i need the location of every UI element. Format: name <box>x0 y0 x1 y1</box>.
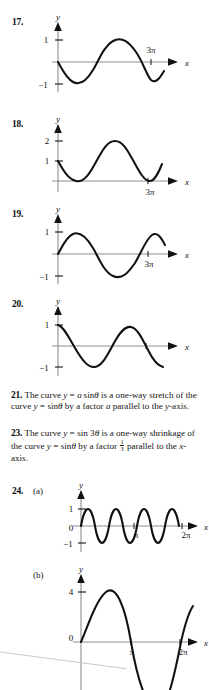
x-axis-arrow <box>168 58 178 66</box>
problem-18-number: 18. <box>12 119 23 129</box>
y-axis-arrow <box>54 124 62 133</box>
y-axis-label: y <box>78 564 83 574</box>
x-axis-label: x <box>184 58 189 68</box>
problem-17-graph: 1 −1 3π y x <box>36 14 196 100</box>
y-axis-arrow <box>54 306 62 315</box>
x-tick-label-3pi: 3π <box>144 259 154 269</box>
problem-24: 24. (a) 1 0 −1 π 2π y x <box>0 484 209 690</box>
y-tick-label-neg1: −1 <box>38 80 48 90</box>
y-tick-label-1: 1 <box>69 504 74 514</box>
x-tick-label-3pi: 3π <box>146 45 156 55</box>
x-axis-arrow <box>188 522 198 530</box>
x-tick-label-pi: π <box>130 647 135 657</box>
x-axis-label: x <box>184 250 189 260</box>
y-axis-arrow <box>77 490 85 499</box>
x-axis-arrow <box>188 638 198 646</box>
problem-23-text: The curve y = sin 3θ is a one-way shrink… <box>11 428 195 463</box>
problem-21-text: The curve y = a sinθ is a one-way stretc… <box>11 390 197 411</box>
problem-21-number: 21. <box>11 390 22 400</box>
problem-20: 20. 1 −1 y x <box>0 296 209 388</box>
problem-24a-graph: 1 0 −1 π 2π y x <box>55 484 209 564</box>
problem-21: 21. The curve y = a sinθ is a one-way st… <box>11 390 203 412</box>
y-axis-label: y <box>55 296 60 306</box>
x-axis-label: x <box>184 342 189 352</box>
y-axis-label: y <box>78 480 83 490</box>
problem-24b-graph: 4 0 π 2π y x <box>55 568 209 690</box>
y-tick-label-1: 1 <box>45 227 50 237</box>
problem-19: 19. 1 −1 3π y x <box>0 206 209 296</box>
x-axis-arrow <box>168 342 178 350</box>
textbook-page: 17. 1 −1 3π y x <box>0 0 209 690</box>
y-tick-label-4: 4 <box>69 587 74 597</box>
problem-24a-label: (a) <box>33 486 43 496</box>
problem-20-number: 20. <box>12 299 23 309</box>
y-tick-label-0: 0 <box>69 523 74 533</box>
problem-17: 17. 1 −1 3π y x <box>0 14 209 104</box>
x-tick-label-2pi: 2π <box>181 530 191 540</box>
problem-19-graph: 1 −1 3π y x <box>36 206 196 292</box>
x-tick-label-pi: π <box>134 530 139 540</box>
y-tick-label-neg1: −1 <box>39 272 49 282</box>
fraction-one-third: 13 <box>120 439 124 453</box>
y-axis-label: y <box>55 12 60 22</box>
y-axis-label: y <box>55 114 60 124</box>
y-tick-label-0: 0 <box>69 633 74 643</box>
x-axis-label: x <box>203 522 208 532</box>
problem-23-number: 23. <box>11 428 22 438</box>
curve <box>81 590 193 690</box>
y-tick-label-1: 1 <box>44 35 49 45</box>
curve <box>58 233 165 277</box>
x-axis-arrow <box>168 250 178 258</box>
problem-20-graph: 1 −1 y x <box>36 296 196 384</box>
y-tick-label-2: 2 <box>45 136 50 146</box>
problem-24-number: 24. <box>12 486 23 496</box>
x-axis-label: x <box>184 177 189 187</box>
problem-23: 23. The curve y = sin 3θ is a one-way sh… <box>11 428 203 463</box>
problem-19-number: 19. <box>12 209 23 219</box>
y-tick-label-neg1: −1 <box>63 539 73 549</box>
y-tick-label-neg1: −1 <box>39 363 49 373</box>
y-axis-arrow <box>54 22 62 31</box>
y-axis-arrow <box>77 574 85 583</box>
y-tick-label-1: 1 <box>45 156 50 166</box>
y-axis-arrow <box>54 214 62 223</box>
problem-18: 18. 2 1 3π y x <box>0 116 209 206</box>
curve <box>58 141 162 181</box>
problem-24b-label: (b) <box>33 570 44 580</box>
problem-17-number: 17. <box>12 17 23 27</box>
x-axis-arrow <box>168 177 178 185</box>
problem-18-graph: 2 1 3π y x <box>36 116 196 202</box>
x-axis-label: x <box>203 638 208 648</box>
x-tick-label-2pi: 2π <box>178 647 188 657</box>
x-tick-label-3pi: 3π <box>145 187 155 197</box>
y-tick-label-1: 1 <box>45 320 50 330</box>
y-axis-label: y <box>55 204 60 214</box>
